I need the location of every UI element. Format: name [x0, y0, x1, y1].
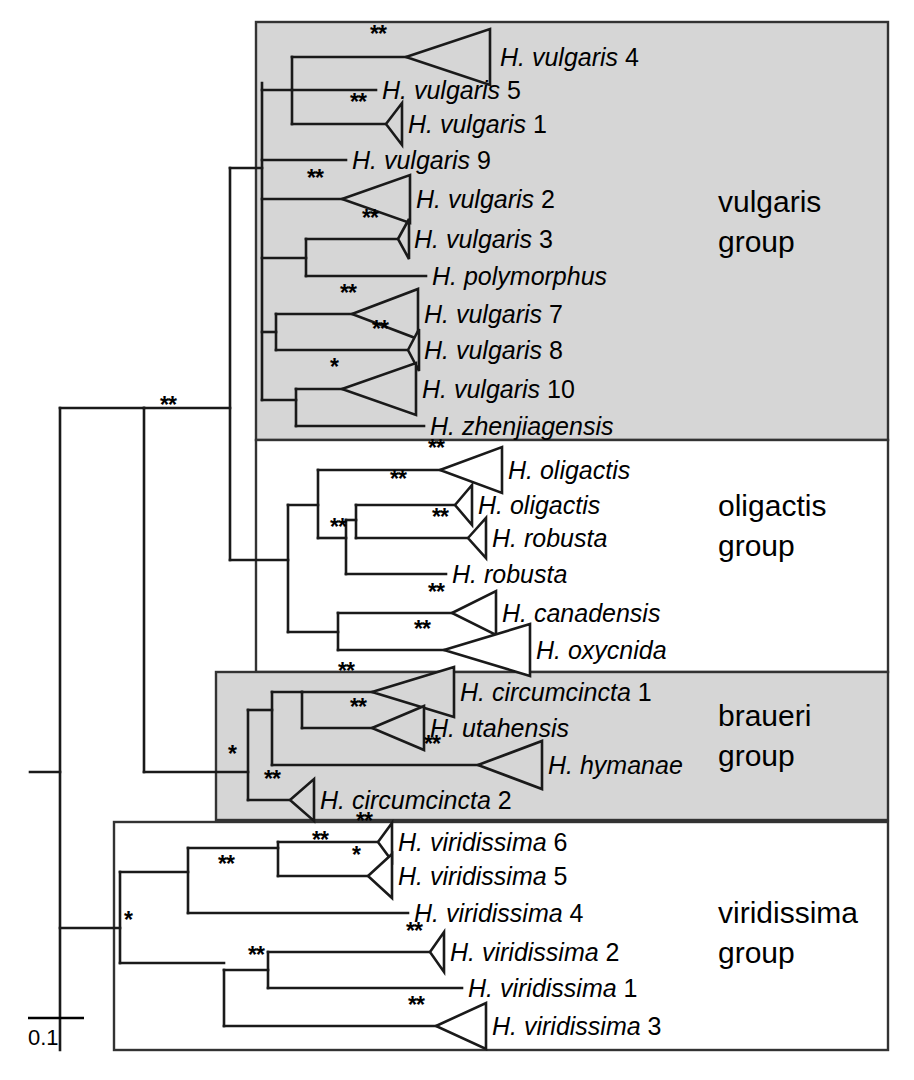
support-viridissima-lower: ** — [248, 942, 265, 968]
support-utahensis: ** — [350, 694, 367, 720]
taxon-label-circumcincta1: H. circumcincta 1 — [460, 678, 652, 706]
taxon-label-vulgaris7: H. vulgaris 7 — [424, 300, 563, 328]
taxon-suffix: 7 — [542, 300, 563, 328]
group-label-vulgaris-name: vulgaris — [718, 185, 821, 218]
taxon-suffix: 2 — [491, 786, 512, 814]
support-robustaA: ** — [432, 504, 449, 530]
taxon-label-vulgaris5: H. vulgaris 5 — [382, 76, 521, 104]
group-label-braueri-name: braueri — [718, 699, 811, 732]
phylogenetic-tree-figure: ************** *************************… — [0, 0, 914, 1080]
taxon-label-vulgaris9: H. vulgaris 9 — [352, 146, 491, 174]
taxon-suffix: 1 — [617, 974, 638, 1002]
taxon-suffix: 3 — [532, 225, 553, 253]
group-label-vulgaris-word: group — [718, 225, 795, 258]
group-label-viridissima-word: group — [718, 936, 795, 969]
support-vulgaris8: ** — [372, 316, 389, 342]
taxon-binomial: H. vulgaris — [422, 375, 540, 403]
support-circumcincta1: ** — [338, 658, 355, 684]
taxon-binomial: H. robusta — [492, 524, 607, 552]
tree-canvas: ************** *************************… — [0, 0, 914, 1080]
support-braueri-stem: * — [228, 741, 237, 767]
scale-bar-label: 0.1 — [28, 1025, 59, 1050]
taxon-binomial: H. robusta — [452, 560, 567, 588]
support-vulgaris4: ** — [370, 21, 387, 47]
taxon-label-polymorphus: H. polymorphus — [432, 262, 607, 290]
taxon-label-oxycnida: H. oxycnida — [536, 636, 667, 664]
support-canadensis: ** — [428, 579, 445, 605]
support-vulgaris1: ** — [350, 89, 367, 115]
taxon-label-viridissima2: H. viridissima 2 — [450, 938, 619, 966]
support-circumcincta2: ** — [264, 766, 281, 792]
support-vulgaris2: ** — [307, 165, 324, 191]
taxon-suffix: 8 — [542, 336, 563, 364]
support-oligactis-stem: ** — [330, 514, 347, 540]
taxon-binomial: H. viridissima — [450, 938, 599, 966]
support-viridissima5: * — [352, 842, 361, 868]
scale-bar: 0.1 — [28, 1018, 84, 1050]
taxon-binomial: H. canadensis — [502, 599, 660, 627]
taxon-label-vulgaris3: H. vulgaris 3 — [414, 225, 553, 253]
taxon-binomial: H. viridissima — [398, 828, 547, 856]
taxon-binomial: H. viridissima — [492, 1012, 641, 1040]
taxon-label-viridissima6: H. viridissima 6 — [398, 828, 567, 856]
group-label-braueri-word: group — [718, 739, 795, 772]
support-backbone-vulgaris-oligactis: ** — [160, 392, 177, 418]
group-label-viridissima-name: viridissima — [718, 896, 858, 929]
taxon-binomial: H. oligactis — [478, 491, 600, 519]
support-viridissima-upper2: ** — [312, 827, 329, 853]
support-vulgaris3: ** — [362, 205, 379, 231]
taxon-label-viridissima5: H. viridissima 5 — [398, 862, 567, 890]
taxon-binomial: H. vulgaris — [382, 76, 500, 104]
taxon-binomial: H. oxycnida — [536, 636, 667, 664]
taxon-label-viridissima1: H. viridissima 1 — [468, 974, 637, 1002]
taxon-binomial: H. viridissima — [398, 862, 547, 890]
taxon-label-vulgaris10: H. vulgaris 10 — [422, 375, 575, 403]
taxon-label-oligactisA: H. oligactis — [508, 456, 630, 484]
taxon-suffix: 9 — [470, 146, 491, 174]
taxon-label-vulgaris8: H. vulgaris 8 — [424, 336, 563, 364]
taxon-label-viridissima4: H. viridissima 4 — [414, 899, 584, 927]
taxon-label-vulgaris1: H. vulgaris 1 — [408, 110, 547, 138]
taxon-binomial: H. vulgaris — [408, 110, 526, 138]
group-label-oligactis-word: group — [718, 529, 795, 562]
taxon-label-zhenjiagensis: H. zhenjiagensis — [430, 412, 613, 440]
taxon-label-vulgaris2: H. vulgaris 2 — [416, 185, 555, 213]
taxon-suffix: 5 — [547, 862, 568, 890]
support-viridissima-stem: * — [124, 907, 133, 933]
taxon-suffix: 2 — [599, 938, 620, 966]
taxon-suffix: 4 — [563, 899, 584, 927]
taxon-binomial: H. hymanae — [548, 751, 683, 779]
taxon-binomial: H. viridissima — [414, 899, 563, 927]
taxon-suffix: 5 — [500, 76, 521, 104]
taxon-binomial: H. vulgaris — [424, 300, 542, 328]
taxon-label-utahensis: H. utahensis — [430, 714, 569, 742]
support-viridissima-upper: ** — [218, 851, 235, 877]
taxon-binomial: H. vulgaris — [414, 225, 532, 253]
taxon-binomial: H. circumcincta — [460, 678, 631, 706]
taxon-label-canadensis: H. canadensis — [502, 599, 660, 627]
taxon-binomial: H. circumcincta — [320, 786, 491, 814]
taxon-binomial: H. vulgaris — [500, 43, 618, 71]
support-oxycnida: ** — [414, 616, 431, 642]
group-label-oligactis-name: oligactis — [718, 489, 826, 522]
support-vulgaris7: ** — [340, 280, 357, 306]
taxon-suffix: 2 — [534, 185, 555, 213]
taxon-label-vulgaris4: H. vulgaris 4 — [500, 43, 639, 71]
taxon-suffix: 10 — [540, 375, 575, 403]
taxon-label-robustaB: H. robusta — [452, 560, 567, 588]
taxon-label-hymanae: H. hymanae — [548, 751, 683, 779]
taxon-binomial: H. vulgaris — [416, 185, 534, 213]
taxon-suffix: 3 — [641, 1012, 662, 1040]
taxon-suffix: 4 — [618, 43, 639, 71]
taxon-binomial: H. utahensis — [430, 714, 569, 742]
taxon-label-circumcincta2: H. circumcincta 2 — [320, 786, 512, 814]
support-viridissima3: ** — [408, 992, 425, 1018]
taxon-label-robustaA: H. robusta — [492, 524, 607, 552]
taxon-binomial: H. zhenjiagensis — [430, 412, 613, 440]
taxon-suffix: 1 — [631, 678, 652, 706]
taxon-binomial: H. vulgaris — [424, 336, 542, 364]
taxon-suffix: 6 — [547, 828, 568, 856]
taxon-binomial: H. vulgaris — [352, 146, 470, 174]
taxon-label-oligactisB: H. oligactis — [478, 491, 600, 519]
taxon-binomial: H. viridissima — [468, 974, 617, 1002]
